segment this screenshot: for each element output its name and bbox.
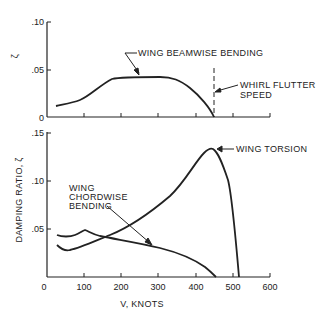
torsion-arrow [217, 146, 234, 152]
beamwise-bending-curve [56, 77, 214, 117]
whirl-flutter-label-2: SPEED [240, 90, 272, 100]
chordwise-label-3: BENDING [69, 201, 112, 211]
x-axis-label: V, KNOTS [120, 299, 164, 309]
xtick-200: 200 [113, 282, 128, 292]
xtick-300: 300 [150, 282, 165, 292]
wing-torsion-label: WING TORSION [236, 144, 307, 154]
xtick-100: 100 [76, 282, 91, 292]
whirl-flutter-label-1: WHIRL FLUTTER [240, 80, 316, 90]
upper-y-label: ζ [10, 54, 20, 58]
damping-ratio-chart: .10 .05 0 ζ WING BEAMWISE BENDING WHIRL … [0, 0, 329, 319]
whirl-arrow [215, 85, 238, 92]
upper-ytick-010: .10 [31, 17, 44, 27]
lower-y-label: DAMPING RATIO, ζ [14, 157, 24, 242]
xtick-500: 500 [225, 282, 240, 292]
lower-ytick-005: .05 [31, 224, 44, 234]
lower-panel: .15 .10 .05 0 100 200 300 400 500 600 V,… [14, 128, 307, 309]
xtick-400: 400 [188, 282, 203, 292]
beamwise-bending-label: WING BEAMWISE BENDING [138, 48, 263, 58]
upper-panel: .10 .05 0 ζ WING BEAMWISE BENDING WHIRL … [10, 17, 316, 123]
wing-torsion-curve [57, 149, 239, 277]
beamwise-arrow [125, 53, 139, 75]
upper-ytick-0: 0 [39, 113, 44, 123]
lower-ytick-015: .15 [31, 128, 44, 138]
upper-ytick-005: .05 [31, 65, 44, 75]
xtick-0: 0 [41, 282, 46, 292]
lower-ytick-010: .10 [31, 176, 44, 186]
wing-chordwise-bending-curve [57, 230, 216, 277]
xtick-600: 600 [262, 282, 277, 292]
upper-ticks [47, 22, 270, 117]
